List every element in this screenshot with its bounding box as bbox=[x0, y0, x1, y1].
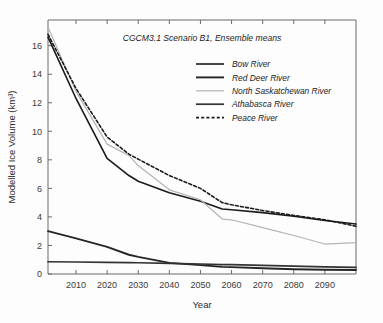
y-tick-label: 6 bbox=[37, 184, 42, 194]
x-axis-ticks: 201020202030204020502060207020802090 bbox=[66, 20, 335, 290]
x-axis-label: Year bbox=[192, 299, 211, 310]
x-tick-label: 2040 bbox=[159, 280, 179, 290]
x-tick-label: 2020 bbox=[97, 280, 117, 290]
x-tick-label: 2010 bbox=[66, 280, 86, 290]
y-tick-label: 2 bbox=[37, 241, 42, 251]
chart-legend: Bow RiverRed Deer RiverNorth Saskatchewa… bbox=[196, 59, 332, 123]
y-axis-ticks: 0246810121416 bbox=[32, 41, 52, 279]
y-tick-label: 8 bbox=[37, 155, 42, 165]
y-axis-label: Modelled Ice Volume (km³) bbox=[6, 91, 17, 204]
chart-canvas: 201020202030204020502060207020802090 024… bbox=[0, 0, 383, 323]
chart-figure: 201020202030204020502060207020802090 024… bbox=[0, 0, 383, 323]
y-tick-label: 4 bbox=[37, 212, 42, 222]
y-tick-label: 10 bbox=[32, 127, 42, 137]
legend-label-bow-river: Bow River bbox=[232, 59, 271, 69]
series-line-peace-river bbox=[48, 34, 356, 226]
x-tick-label: 2060 bbox=[222, 280, 242, 290]
legend-label-red-deer-river: Red Deer River bbox=[232, 73, 291, 83]
x-tick-label: 2030 bbox=[128, 280, 148, 290]
x-tick-label: 2070 bbox=[253, 280, 273, 290]
y-tick-label: 16 bbox=[32, 41, 42, 51]
series-line-athabasca-river bbox=[48, 262, 356, 268]
chart-title: CGCM3.1 Scenario B1, Ensemble means bbox=[123, 33, 282, 43]
y-tick-label: 14 bbox=[32, 69, 42, 79]
x-tick-label: 2080 bbox=[284, 280, 304, 290]
legend-label-peace-river: Peace River bbox=[232, 113, 279, 123]
legend-label-athabasca-river: Athabasca River bbox=[231, 99, 295, 109]
plot-border bbox=[48, 20, 356, 274]
y-tick-label: 12 bbox=[32, 98, 42, 108]
y-tick-label: 0 bbox=[37, 269, 42, 279]
axes-frame bbox=[48, 20, 356, 274]
x-tick-label: 2050 bbox=[190, 280, 210, 290]
x-tick-label: 2090 bbox=[315, 280, 335, 290]
legend-label-north-saskatchewan-river: North Saskatchewan River bbox=[232, 86, 332, 96]
series-line-bow-river bbox=[48, 37, 356, 224]
series-line-north-saskatchewan-river bbox=[48, 27, 356, 244]
